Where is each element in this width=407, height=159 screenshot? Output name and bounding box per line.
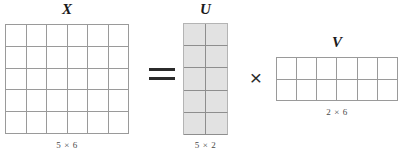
matrix-u-cell	[206, 68, 228, 90]
matrix-v-cell	[277, 58, 297, 80]
matrix-x-cell	[27, 25, 48, 47]
matrix-x-cell	[88, 69, 109, 91]
matrix-v-cell	[297, 58, 317, 80]
matrix-x-cell	[47, 112, 68, 134]
matrix-v-cell	[297, 80, 317, 102]
matrix-x-cell	[6, 47, 27, 69]
matrix-x-grid	[5, 24, 129, 134]
matrix-v-label: V	[276, 35, 398, 50]
matrix-u-block: U 5 × 2	[183, 2, 228, 154]
matrix-x-cell	[88, 25, 109, 47]
equals-bar-top	[149, 68, 175, 71]
matrix-v-cell	[358, 58, 378, 80]
matrix-x-cell	[27, 69, 48, 91]
matrix-u-cell	[184, 113, 206, 135]
matrix-x-cell	[68, 112, 89, 134]
matrix-x-cell	[109, 112, 130, 134]
matrix-x-cell	[88, 47, 109, 69]
matrix-x-cell	[68, 90, 89, 112]
matrix-u-cell	[184, 91, 206, 113]
matrix-x-cell	[88, 112, 109, 134]
matrix-u-cell	[184, 46, 206, 68]
matrix-x-cell	[6, 69, 27, 91]
matrix-x-cell	[109, 25, 130, 47]
matrix-u-cell	[206, 24, 228, 46]
equals-operator	[149, 68, 175, 82]
matrix-v-cell	[317, 58, 337, 80]
matrix-x-cell	[109, 90, 130, 112]
matrix-u-label: U	[183, 2, 228, 17]
matrix-x-cell	[27, 47, 48, 69]
matrix-v-block: V 2 × 6	[276, 35, 398, 125]
matrix-x-cell	[88, 90, 109, 112]
matrix-v-cell	[378, 80, 398, 102]
times-operator: ×	[245, 67, 267, 89]
matrix-v-cell	[277, 80, 297, 102]
matrix-u-caption: 5 × 2	[183, 140, 228, 150]
matrix-x-block: X 5 × 6	[5, 2, 129, 154]
matrix-u-cell	[184, 24, 206, 46]
matrix-x-caption: 5 × 6	[5, 140, 129, 150]
matrix-x-label: X	[5, 2, 129, 17]
matrix-u-grid	[183, 23, 228, 135]
matrix-v-cell	[337, 58, 357, 80]
matrix-x-cell	[27, 112, 48, 134]
matrix-v-cell	[358, 80, 378, 102]
matrix-u-cell	[184, 68, 206, 90]
matrix-x-cell	[47, 90, 68, 112]
matrix-v-cell	[317, 80, 337, 102]
matrix-x-cell	[47, 47, 68, 69]
matrix-u-cell	[206, 91, 228, 113]
matrix-x-cell	[6, 90, 27, 112]
matrix-x-cell	[47, 69, 68, 91]
matrix-u-cell	[206, 113, 228, 135]
matrix-x-cell	[68, 69, 89, 91]
matrix-v-cell	[378, 58, 398, 80]
matrix-x-cell	[68, 25, 89, 47]
equals-bar-bottom	[149, 77, 175, 80]
matrix-factorization-figure: X 5 × 6 U 5 × 2 × V 2 × 6	[0, 0, 407, 159]
matrix-x-cell	[6, 112, 27, 134]
matrix-u-cell	[206, 46, 228, 68]
matrix-x-cell	[109, 69, 130, 91]
matrix-x-cell	[6, 25, 27, 47]
matrix-x-cell	[68, 47, 89, 69]
matrix-v-cell	[337, 80, 357, 102]
matrix-x-cell	[109, 47, 130, 69]
matrix-x-cell	[27, 90, 48, 112]
matrix-v-caption: 2 × 6	[276, 107, 398, 117]
matrix-x-cell	[47, 25, 68, 47]
matrix-v-grid	[276, 57, 398, 101]
